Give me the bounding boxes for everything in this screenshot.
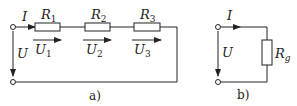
terminal-top-b (216, 25, 221, 30)
circuit-diagram: I U R1 R2 R3 U1 U2 U3 a) I U Rg b) (0, 0, 297, 106)
resistor-label-r3: R3 (140, 8, 156, 24)
voltage-label-u1: U1 (35, 43, 52, 59)
resistor-label-r1: R1 (41, 8, 57, 24)
resistor-r3 (134, 23, 160, 31)
caption-b: b) (237, 89, 249, 101)
voltage-label-u3: U3 (134, 43, 151, 59)
voltage-label-b: U (222, 46, 233, 59)
current-label-b: I (227, 9, 232, 22)
resistor-label-r2: R2 (91, 8, 107, 24)
voltage-label-a: U (17, 47, 28, 60)
resistor-label-rg: Rg (275, 47, 291, 63)
terminal-bottom-b (216, 80, 221, 85)
terminal-top-a (11, 25, 16, 30)
terminal-bottom-a (11, 80, 16, 85)
resistor-r2 (85, 23, 110, 31)
current-label-a: I (22, 10, 27, 23)
caption-a: a) (89, 90, 101, 102)
voltage-label-u2: U2 (86, 43, 103, 59)
resistor-r1 (35, 23, 60, 31)
resistor-rg (262, 40, 272, 65)
